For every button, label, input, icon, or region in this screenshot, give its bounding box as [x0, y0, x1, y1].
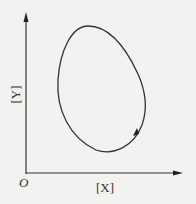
y-axis-label: [Y] [9, 85, 22, 103]
curve-direction-arrow-icon [133, 128, 139, 136]
x-axis-arrow-icon [173, 171, 183, 176]
phase-diagram: O [X] [Y] [0, 0, 196, 204]
x-axis-label: [X] [96, 181, 114, 194]
origin-label: O [19, 176, 28, 189]
y-axis-arrow-icon [24, 12, 29, 22]
limit-cycle-curve [58, 26, 146, 152]
diagram-canvas [0, 0, 196, 204]
